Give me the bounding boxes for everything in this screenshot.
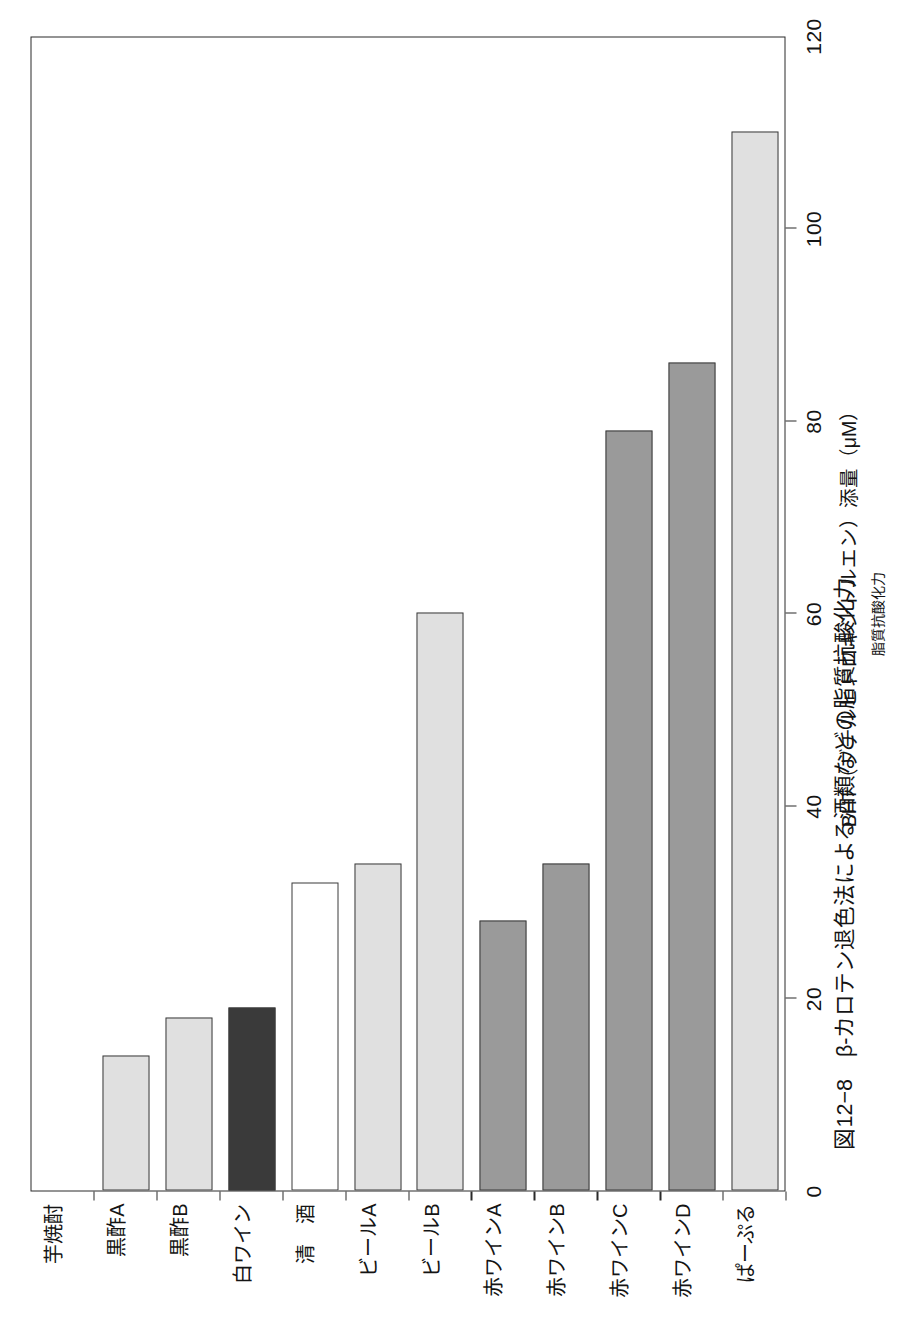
bar-rect — [542, 863, 589, 1190]
category-tick — [470, 1191, 471, 1200]
value-tick-label: 80 — [801, 409, 825, 433]
category-label-9: 赤ワインB — [533, 1203, 580, 1296]
category-tick — [785, 1191, 786, 1200]
category-tick — [219, 1191, 220, 1200]
category-tick — [659, 1191, 660, 1200]
plot-area — [30, 36, 785, 1191]
category-tick — [408, 1191, 409, 1200]
bar-2 — [102, 35, 149, 1190]
category-tick — [596, 1191, 597, 1200]
bar-rect — [668, 362, 715, 1190]
bar-6 — [354, 35, 401, 1190]
category-label-8: 赤ワインA — [470, 1203, 517, 1296]
bar-rect — [354, 863, 401, 1190]
bar-rect — [165, 1017, 212, 1190]
category-label-1: 芋焼酎 — [30, 1203, 77, 1263]
category-label-10: 赤ワインC — [596, 1203, 643, 1297]
bar-rect — [731, 131, 778, 1190]
bar-rect — [228, 1007, 275, 1190]
bar-4 — [228, 35, 275, 1190]
value-tick — [785, 420, 796, 421]
bar-10 — [605, 35, 652, 1190]
value-tick — [785, 227, 796, 228]
bar-rect — [416, 613, 463, 1191]
bar-rect — [605, 430, 652, 1190]
value-tick-label: 100 — [801, 210, 825, 247]
category-tick — [345, 1191, 346, 1200]
category-tick — [156, 1191, 157, 1200]
category-label-2: 黒酢A — [93, 1203, 140, 1256]
value-tick-label: 120 — [801, 18, 825, 55]
bar-rect — [102, 1055, 149, 1190]
category-tick — [93, 1191, 94, 1200]
value-tick — [785, 612, 796, 613]
category-tick — [282, 1191, 283, 1200]
bar-chart-figure: 芋焼酎黒酢A黒酢B白ワイン清 酒ビールAビールB赤ワインA赤ワインB赤ワインC赤… — [0, 0, 905, 1339]
category-label-4: 白ワイン — [219, 1203, 266, 1283]
value-tick-label: 20 — [801, 986, 825, 1010]
category-label-3: 黒酢B — [156, 1203, 203, 1256]
bar-7 — [416, 35, 463, 1190]
bar-9 — [542, 35, 589, 1190]
category-tick — [722, 1191, 723, 1200]
bar-3 — [165, 35, 212, 1190]
category-label-11: 赤ワインD — [659, 1203, 706, 1297]
category-label-6: ビールA — [345, 1203, 392, 1276]
value-tick-label: 60 — [801, 601, 825, 625]
rotated-figure-stage: 芋焼酎黒酢A黒酢B白ワイン清 酒ビールAビールB赤ワインA赤ワインB赤ワインC赤… — [0, 0, 905, 1339]
bar-5 — [291, 35, 338, 1190]
value-tick-label: 0 — [801, 1185, 825, 1197]
value-tick — [785, 997, 796, 998]
bar-12 — [731, 35, 778, 1190]
category-label-7: ビールB — [408, 1203, 455, 1276]
axis-subtitle: 脂質抗酸化力 — [866, 36, 886, 1191]
bar-8 — [479, 35, 526, 1190]
category-axis: 芋焼酎黒酢A黒酢B白ワイン清 酒ビールAビールB赤ワインA赤ワインB赤ワインC赤… — [30, 1191, 785, 1339]
category-tick — [533, 1191, 534, 1200]
bar-11 — [668, 35, 715, 1190]
bar-rect — [479, 921, 526, 1191]
category-label-12: ぱーぷる — [722, 1203, 769, 1282]
bar-rect — [291, 882, 338, 1190]
value-tick-label: 40 — [801, 794, 825, 818]
bar-series — [31, 37, 784, 1190]
figure-caption: 図12−8 β-カロテン退色法による酒類などの脂質抗酸化力 — [826, 576, 857, 1149]
category-label-5: 清 酒 — [282, 1203, 329, 1263]
value-tick — [785, 805, 796, 806]
